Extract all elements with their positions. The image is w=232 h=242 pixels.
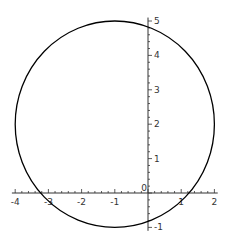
x-tick-label: 0: [141, 183, 147, 193]
y-tick-label: 5: [154, 16, 160, 26]
circle-plot: -4-3-2-1012-112345: [0, 0, 232, 242]
y-tick-label: 3: [154, 85, 160, 95]
y-tick-label: -1: [154, 222, 163, 232]
x-tick-label: -1: [110, 197, 119, 207]
y-tick-label: 2: [154, 119, 160, 129]
y-tick-label: 4: [154, 50, 160, 60]
x-tick-label: 2: [212, 197, 218, 207]
y-tick-label: 1: [154, 154, 160, 164]
x-tick-label: -4: [11, 197, 20, 207]
x-tick-label: -2: [77, 197, 86, 207]
